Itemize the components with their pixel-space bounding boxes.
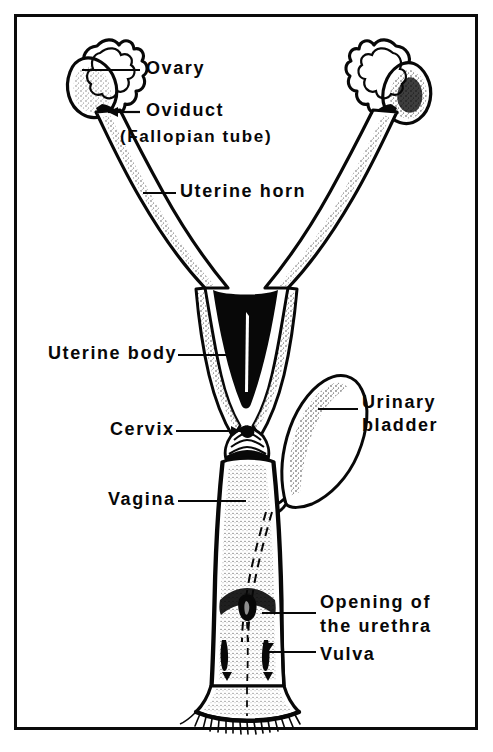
label-vagina: Vagina [108,490,176,508]
label-urinary-bladder-line2: bladder [362,416,438,434]
label-ovary: Ovary [146,59,205,77]
label-uterine-body: Uterine body [48,344,177,362]
label-urethra-line2: the urethra [320,617,432,635]
uterine-body-group [196,288,297,437]
label-fallopian-tube: (Fallopian tube) [120,128,272,145]
label-oviduct: Oviduct [146,101,224,119]
urinary-bladder-group [268,375,367,515]
anatomy-illustration [0,0,493,752]
label-vulva: Vulva [320,645,375,663]
anatomical-figure: Ovary Oviduct (Fallopian tube) Uterine h… [0,0,493,752]
label-uterine-horn: Uterine horn [180,182,306,200]
label-urinary-bladder-line1: Urinary [362,393,436,411]
vulva-tail-wisp [180,712,196,724]
vulva-labium-left [221,640,229,671]
label-cervix: Cervix [110,420,175,438]
label-urethra-line1: Opening of [320,593,431,611]
